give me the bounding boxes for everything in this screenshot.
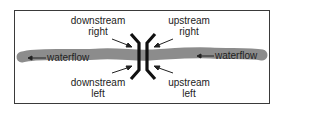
waterflow-label-right: waterflow [215, 50, 257, 61]
waterflow-label-left: waterflow [47, 52, 89, 63]
label-upstream-left: upstream left [162, 77, 216, 99]
label-downstream-left: downstream left [66, 77, 130, 99]
label-downstream-right: downstream right [66, 15, 130, 37]
label-upstream-right: upstream right [162, 15, 216, 37]
